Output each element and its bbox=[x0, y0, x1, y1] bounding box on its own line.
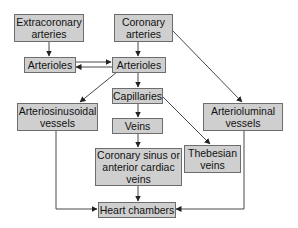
node-arteriosinusoidal-vessels: Arteriosinusoidal vessels bbox=[17, 103, 98, 131]
node-arterioluminal-vessels: Arterioluminal vessels bbox=[203, 103, 283, 131]
node-veins: Veins bbox=[112, 118, 163, 134]
node-heart-chambers: Heart chambers bbox=[98, 202, 176, 218]
node-coronary-sinus: Coronary sinus or anterior cardiac veins bbox=[95, 148, 182, 186]
node-arterioles-left: Arterioles bbox=[24, 57, 76, 73]
coronary-flow-diagram: Extracoronary arteries Coronary arteries… bbox=[0, 0, 298, 228]
node-extracoronary-arteries: Extracoronary arteries bbox=[14, 14, 84, 42]
edge-coronary-to-arterioluminal bbox=[172, 30, 242, 102]
node-arterioles-center: Arterioles bbox=[112, 57, 166, 73]
node-thebesian-veins: Thebesian veins bbox=[184, 145, 241, 173]
node-coronary-arteries: Coronary arteries bbox=[114, 14, 173, 42]
edge-arteriosinusoidal-to-heart bbox=[56, 130, 97, 209]
node-capillaries: Capillaries bbox=[112, 88, 163, 104]
